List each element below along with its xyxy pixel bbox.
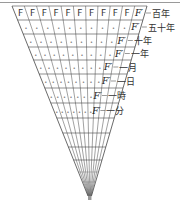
placeholder-dot: • — [56, 65, 59, 71]
placeholder-dot: • — [50, 94, 53, 100]
placeholder-dot: • — [55, 109, 58, 115]
f-cell: F — [77, 8, 82, 18]
shifted-f-cell: F′ — [103, 62, 112, 72]
placeholder-dot: • — [61, 109, 64, 115]
placeholder-dot: • — [99, 52, 102, 58]
f-cell: F — [42, 8, 47, 18]
f-cell: F — [101, 8, 106, 18]
time-label: 一時 — [108, 91, 126, 101]
placeholder-dot: • — [110, 39, 113, 45]
placeholder-dot: • — [80, 39, 83, 45]
placeholder-dot: • — [79, 25, 82, 31]
placeholder-dot: • — [89, 94, 92, 100]
placeholder-dot: • — [81, 65, 84, 71]
placeholder-dot: • — [123, 25, 126, 31]
placeholder-dot: • — [46, 25, 49, 31]
placeholder-dot: • — [112, 25, 115, 31]
time-label: 一月 — [119, 63, 137, 73]
placeholder-dot: • — [63, 94, 66, 100]
placeholder-dot: • — [39, 39, 42, 45]
f-cell: F — [54, 8, 59, 18]
placeholder-dot: • — [34, 52, 37, 58]
placeholder-dot: • — [62, 52, 65, 58]
shifted-f-cell: F′ — [130, 22, 139, 32]
placeholder-dot: • — [84, 109, 87, 115]
placeholder-dot: • — [67, 109, 70, 115]
placeholder-dot: • — [39, 65, 42, 71]
placeholder-dot: • — [101, 25, 104, 31]
placeholder-dot: • — [83, 94, 86, 100]
placeholder-dot: • — [59, 79, 62, 85]
shifted-f-cell: F′ — [91, 106, 100, 116]
f-cell: F — [125, 8, 130, 18]
time-label: 十年 — [134, 35, 152, 46]
placeholder-dot: • — [35, 25, 38, 31]
placeholder-dot: • — [53, 52, 56, 58]
placeholder-dot: • — [78, 109, 81, 115]
placeholder-dot: • — [67, 79, 70, 85]
shifted-f-cell: F′ — [101, 76, 110, 86]
time-label: 一日 — [117, 77, 135, 87]
placeholder-dot: • — [29, 39, 32, 45]
placeholder-dot: • — [64, 65, 67, 71]
shifted-f-cell: F′ — [134, 8, 143, 18]
funnel-diagram: FFFFFFFFFFF′百年••••••••••F′五十年•••••••••F′… — [0, 0, 180, 201]
placeholder-dot: • — [70, 94, 73, 100]
placeholder-dot: • — [90, 65, 93, 71]
funnel-grid: FFFFFFFFFFF′百年••••••••••F′五十年•••••••••F′… — [0, 0, 180, 201]
f-cell: F — [89, 8, 94, 18]
placeholder-dot: • — [97, 79, 100, 85]
placeholder-dot: • — [56, 94, 59, 100]
time-label: 五十年 — [148, 22, 175, 33]
placeholder-dot: • — [82, 79, 85, 85]
placeholder-dot: • — [73, 65, 76, 71]
f-cell: F — [65, 8, 70, 18]
f-cell: F — [30, 8, 35, 18]
placeholder-dot: • — [24, 25, 27, 31]
placeholder-dot: • — [70, 39, 73, 45]
placeholder-dot: • — [44, 79, 47, 85]
placeholder-dot: • — [50, 39, 53, 45]
placeholder-dot: • — [76, 94, 79, 100]
placeholder-dot: • — [60, 39, 63, 45]
placeholder-dot: • — [72, 109, 75, 115]
shifted-f-cell: F′ — [117, 36, 126, 46]
placeholder-dot: • — [81, 52, 84, 58]
time-label: 一分 — [106, 106, 124, 116]
f-cell: F — [18, 8, 23, 18]
placeholder-dot: • — [71, 52, 74, 58]
placeholder-dot: • — [43, 52, 46, 58]
time-label: 一年 — [131, 48, 149, 59]
placeholder-dot: • — [90, 52, 93, 58]
shifted-f-cell: F′ — [92, 91, 101, 101]
placeholder-dot: • — [75, 79, 78, 85]
shifted-f-cell: F′ — [114, 49, 123, 59]
placeholder-dot: • — [100, 39, 103, 45]
placeholder-dot: • — [90, 25, 93, 31]
f-cell: F — [113, 8, 118, 18]
placeholder-dot: • — [68, 25, 71, 31]
placeholder-dot: • — [57, 25, 60, 31]
placeholder-dot: • — [98, 65, 101, 71]
placeholder-dot: • — [90, 79, 93, 85]
placeholder-dot: • — [108, 52, 111, 58]
time-label: 百年 — [152, 8, 170, 19]
placeholder-dot: • — [90, 39, 93, 45]
placeholder-dot: • — [48, 65, 51, 71]
placeholder-dot: • — [52, 79, 55, 85]
